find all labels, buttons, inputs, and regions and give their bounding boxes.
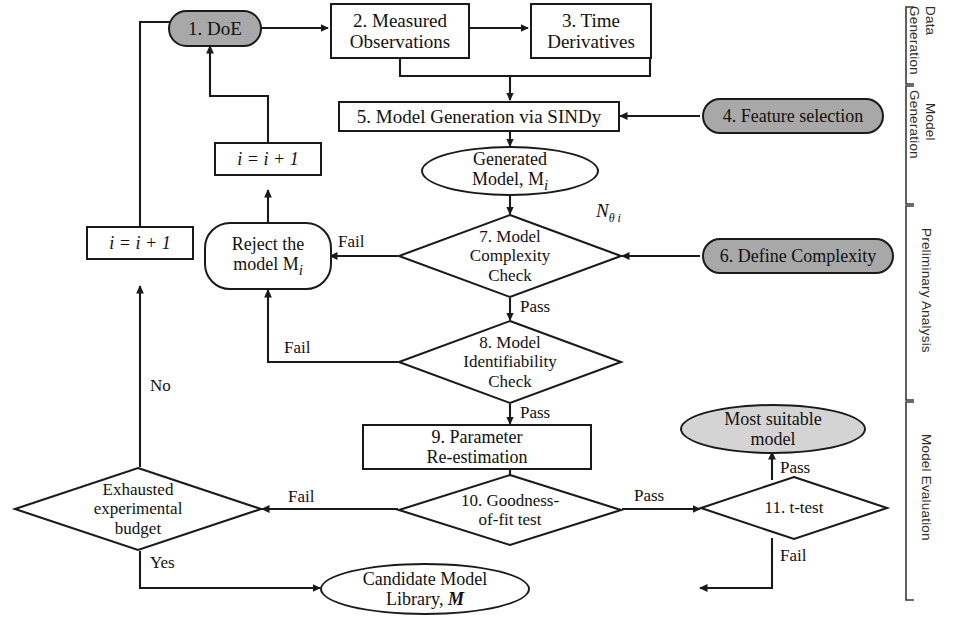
node-goodness-of-fit[interactable]: 10. Goodness- of-fit test	[398, 474, 622, 546]
complexity-check-line3: Check	[488, 266, 531, 285]
exhausted-budget-line1: Exhausted	[103, 480, 174, 499]
node-feature-selection-label: 4. Feature selection	[723, 106, 863, 126]
most-suitable-model-line1: Most suitable	[724, 409, 822, 429]
node-exhausted-budget[interactable]: Exhausted experimental budget	[14, 467, 262, 551]
node-measured-observations[interactable]: 2. Measured Observations	[330, 3, 470, 59]
goodness-of-fit-line2: of-fit test	[479, 510, 542, 529]
bracket-label-model-generation-line1: Model	[923, 103, 938, 141]
edge-label-gof-fail: Fail	[288, 487, 314, 507]
reject-model-line1: Reject the	[232, 234, 304, 254]
node-identifiability-check[interactable]: 8. Model Identifiability Check	[398, 320, 622, 404]
node-measured-observations-line2: Observations	[350, 31, 450, 52]
bracket-label-data-generation-line1: Data	[923, 6, 938, 35]
node-doe-label: 1. DoE	[188, 18, 242, 39]
edge-label-n-theta: Nθ i	[596, 200, 621, 226]
node-increment-left[interactable]: i = i + 1	[86, 226, 194, 260]
generated-model-text: Model, M	[472, 169, 544, 189]
exhausted-budget-line3: budget	[115, 519, 161, 538]
edge-label-identifiability-fail: Fail	[284, 338, 310, 358]
bracket-label-model-evaluation: Model Evaluation	[919, 434, 934, 541]
reject-model-subscript: i	[299, 261, 303, 277]
bracket-label-model-generation-line2: Generation	[907, 90, 922, 159]
node-complexity-check[interactable]: 7. Model Complexity Check	[398, 214, 622, 298]
node-generated-model-line2: Model, Mi	[472, 169, 548, 193]
edge-label-budget-yes: Yes	[150, 553, 175, 573]
node-model-generation-label: 5. Model Generation via SINDy	[357, 106, 601, 127]
node-define-complexity-label: 6. Define Complexity	[720, 246, 876, 266]
node-increment-top[interactable]: i = i + 1	[214, 142, 322, 176]
reject-model-line2: model Mi	[233, 254, 303, 278]
node-feature-selection[interactable]: 4. Feature selection	[702, 98, 884, 134]
n-theta-subscript: θ i	[609, 211, 621, 225]
node-define-complexity[interactable]: 6. Define Complexity	[702, 238, 894, 274]
complexity-check-line2: Complexity	[470, 246, 550, 265]
reject-model-text: model M	[233, 254, 299, 274]
complexity-check-line1: 7. Model	[479, 227, 540, 246]
edge-label-gof-pass: Pass	[634, 486, 664, 506]
node-generated-model-line1: Generated	[473, 149, 547, 169]
exhausted-budget-line2: experimental	[94, 499, 183, 518]
node-most-suitable-model[interactable]: Most suitable model	[680, 404, 866, 454]
node-doe[interactable]: 1. DoE	[168, 10, 262, 47]
parameter-reestimation-line1: 9. Parameter	[432, 427, 523, 447]
node-time-derivatives-line1: 3. Time	[562, 10, 620, 31]
identifiability-check-line1: 8. Model	[479, 333, 540, 352]
candidate-library-symbol: M	[448, 589, 464, 609]
edge-label-budget-no: No	[150, 376, 171, 396]
bracket-label-preliminary-analysis: Preliminary Analysis	[919, 228, 934, 353]
edge-label-complexity-fail: Fail	[338, 232, 364, 252]
edge-label-identifiability-pass: Pass	[520, 403, 550, 423]
candidate-library-text: Library,	[386, 589, 448, 609]
node-reject-model[interactable]: Reject the model Mi	[204, 222, 332, 290]
most-suitable-model-line2: model	[751, 429, 796, 449]
node-parameter-reestimation[interactable]: 9. Parameter Re-estimation	[362, 424, 592, 470]
candidate-library-line2: Library, M	[386, 589, 464, 609]
edge-label-complexity-pass: Pass	[520, 297, 550, 317]
figure-canvas: 1. DoE 2. Measured Observations 3. Time …	[0, 0, 957, 638]
increment-top-label: i = i + 1	[237, 149, 298, 169]
node-measured-observations-line1: 2. Measured	[353, 10, 447, 31]
node-model-generation[interactable]: 5. Model Generation via SINDy	[338, 101, 620, 132]
goodness-of-fit-line1: 10. Goodness-	[461, 491, 559, 510]
bracket-label-data-generation-line2: Generation	[907, 6, 922, 75]
identifiability-check-line3: Check	[488, 372, 531, 391]
edge-label-ttest-fail: Fail	[780, 546, 806, 566]
node-generated-model[interactable]: Generated Model, Mi	[421, 146, 599, 196]
edge-label-ttest-pass: Pass	[780, 458, 810, 478]
parameter-reestimation-line2: Re-estimation	[427, 447, 528, 467]
generated-model-subscript: i	[544, 176, 548, 192]
increment-left-label: i = i + 1	[109, 233, 170, 253]
identifiability-check-line2: Identifiability	[463, 352, 556, 371]
node-time-derivatives[interactable]: 3. Time Derivatives	[530, 3, 652, 59]
candidate-library-line1: Candidate Model	[363, 569, 487, 589]
node-candidate-model-library[interactable]: Candidate Model Library, M	[320, 563, 530, 615]
node-time-derivatives-line2: Derivatives	[547, 31, 635, 52]
node-t-test[interactable]: 11. t-test	[700, 476, 888, 540]
n-theta-symbol: N	[596, 200, 609, 221]
t-test-label: 11. t-test	[765, 498, 824, 517]
